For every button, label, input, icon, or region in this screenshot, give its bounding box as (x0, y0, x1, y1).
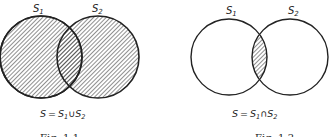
set-label-s1: S1 (33, 3, 44, 16)
caption-fig-1-2: Fig. 1-2 (255, 132, 294, 137)
set-label-s2: S2 (288, 5, 299, 18)
equation-intersection: S=S1∩S2 (232, 108, 277, 121)
figure-intersection: S1 S2 S=S1∩S2 Fig. 1-2 (191, 5, 328, 137)
figure-union: S1 S2 S=S1∪S2 Fig. 1-1 (0, 3, 139, 137)
equation-union: S=S1∪S2 (40, 108, 85, 121)
caption-fig-1-1: Fig. 1-1 (40, 132, 79, 137)
set-label-s1: S1 (226, 5, 237, 18)
set-label-s2: S2 (92, 3, 103, 16)
venn-diagrams: S1 S2 S=S1∪S2 Fig. 1-1 S1 S2 S=S1∩S2 Fig… (0, 0, 330, 137)
